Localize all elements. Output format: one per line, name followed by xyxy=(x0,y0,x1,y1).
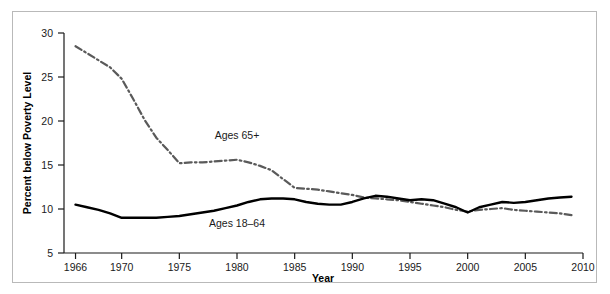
series-paths xyxy=(76,46,572,218)
x-tick-label: 1970 xyxy=(110,261,134,273)
axes-group xyxy=(64,33,583,253)
y-axis-ticks: 51015202530 xyxy=(41,27,64,259)
y-tick-label: 25 xyxy=(41,71,53,83)
x-tick-label: 1975 xyxy=(168,261,192,273)
y-axis-title: Percent below Poverty Level xyxy=(21,72,33,214)
figure-root: 51015202530 1966197019751980198519901995… xyxy=(0,0,610,294)
x-tick-label: 1990 xyxy=(341,261,365,273)
x-axis-ticks: 1966197019751980198519901995200020052010 xyxy=(64,253,595,273)
y-tick-label: 30 xyxy=(41,27,53,39)
x-tick-label: 1966 xyxy=(64,261,88,273)
x-tick-label: 1995 xyxy=(398,261,422,273)
series-annotation-label: Ages 18–64 xyxy=(209,217,265,229)
x-axis-title: Year xyxy=(312,272,334,284)
x-tick-label: 1985 xyxy=(283,261,307,273)
series-line-ages-18-64 xyxy=(76,196,572,218)
x-tick-label: 2010 xyxy=(571,261,595,273)
y-tick-label: 10 xyxy=(41,203,53,215)
line-chart: 51015202530 1966197019751980198519901995… xyxy=(0,0,610,294)
y-tick-label: 20 xyxy=(41,115,53,127)
x-tick-label: 2000 xyxy=(456,261,480,273)
series-line-ages-65- xyxy=(76,46,572,215)
series-annotations: Ages 65+Ages 18–64 xyxy=(209,129,265,229)
y-tick-label: 15 xyxy=(41,159,53,171)
series-annotation-label: Ages 65+ xyxy=(215,129,260,141)
x-tick-label: 2005 xyxy=(514,261,538,273)
y-tick-label: 5 xyxy=(47,247,53,259)
x-tick-label: 1980 xyxy=(225,261,249,273)
